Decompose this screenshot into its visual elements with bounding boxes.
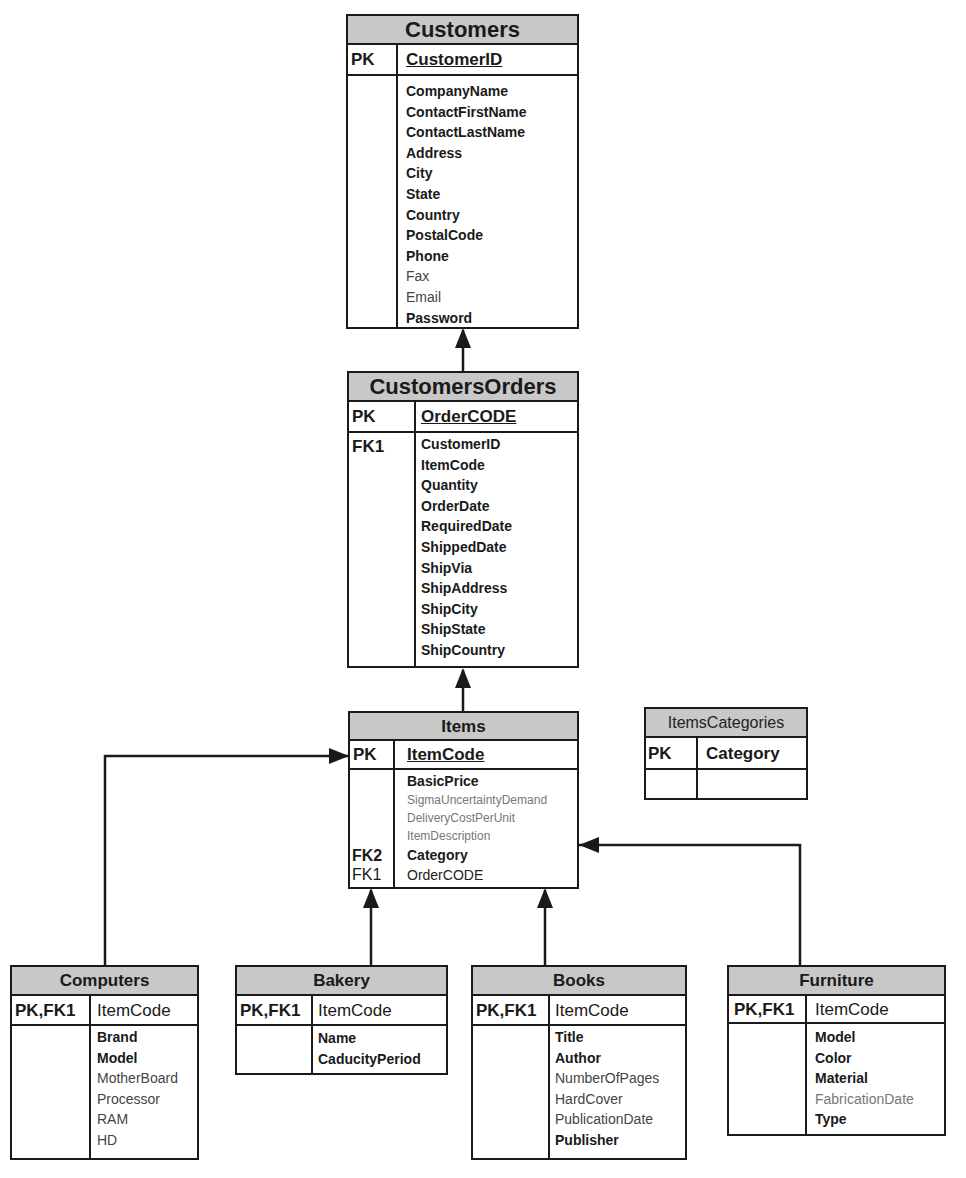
field: ItemDescription	[407, 827, 547, 845]
field: Quantity	[421, 475, 512, 496]
field: HardCover	[555, 1089, 659, 1110]
table-items-categories[interactable]: ItemsCategories PK Category	[644, 707, 808, 800]
pk-field: ItemCode	[313, 996, 392, 1024]
arrowhead-items-right	[579, 837, 599, 853]
field: HD	[97, 1130, 178, 1151]
field: ShipVia	[421, 558, 512, 579]
field: State	[406, 184, 527, 205]
field: Author	[555, 1048, 659, 1069]
field: ShippedDate	[421, 537, 512, 558]
table-title: Items	[350, 713, 577, 741]
field: RequiredDate	[421, 516, 512, 537]
field: ItemCode	[421, 455, 512, 476]
pk-label: PK	[646, 738, 698, 768]
field: MotherBoard	[97, 1068, 178, 1089]
pk-field: ItemCode	[91, 996, 171, 1024]
field: Material	[815, 1068, 914, 1089]
field: Country	[406, 205, 527, 226]
field: Publisher	[555, 1130, 659, 1151]
table-books[interactable]: Books PK,FK1 ItemCode Title Author Numbe…	[471, 965, 687, 1160]
field: OrderCODE	[407, 866, 547, 885]
pk-field: ItemCode	[550, 996, 629, 1024]
table-computers[interactable]: Computers PK,FK1 ItemCode Brand Model Mo…	[10, 965, 199, 1160]
arrowhead-orders	[455, 668, 471, 688]
pk-label: PK,FK1	[473, 996, 550, 1024]
table-items[interactable]: Items PK ItemCode FK2 FK1 BasicPrice Sig…	[348, 711, 579, 889]
field: ContactLastName	[406, 122, 527, 143]
field: Processor	[97, 1089, 178, 1110]
fk2-label: FK2	[352, 846, 393, 865]
field: FabricationDate	[815, 1089, 914, 1110]
field: ShipAddress	[421, 578, 512, 599]
pk-label: PK,FK1	[237, 996, 313, 1024]
field: CaducityPeriod	[318, 1049, 421, 1070]
field: BasicPrice	[407, 772, 547, 791]
table-title: Furniture	[729, 967, 944, 996]
pk-field: Category	[698, 738, 780, 768]
field: PostalCode	[406, 225, 527, 246]
field: ShipState	[421, 619, 512, 640]
pk-label: PK	[348, 45, 398, 74]
fk-label: FK1	[352, 436, 414, 458]
field: Email	[406, 287, 527, 308]
pk-field: OrderCODE	[416, 402, 516, 431]
table-title: Books	[473, 967, 685, 996]
field: ShipCity	[421, 599, 512, 620]
field: NumberOfPages	[555, 1068, 659, 1089]
pk-label: PK,FK1	[729, 996, 807, 1022]
field: Password	[406, 308, 527, 329]
field: Type	[815, 1109, 914, 1130]
table-customers-orders[interactable]: CustomersOrders PK OrderCODE FK1 Custome…	[347, 371, 579, 668]
field: DeliveryCostPerUnit	[407, 809, 547, 827]
table-bakery[interactable]: Bakery PK,FK1 ItemCode Name CaducityPeri…	[235, 965, 448, 1075]
field: Address	[406, 143, 527, 164]
table-customers[interactable]: Customers PK CustomerID CompanyName Cont…	[346, 14, 579, 329]
field: City	[406, 163, 527, 184]
table-title: Computers	[12, 967, 197, 996]
field: Title	[555, 1027, 659, 1048]
field: OrderDate	[421, 496, 512, 517]
table-title: Bakery	[237, 967, 446, 996]
pk-label: PK,FK1	[12, 996, 91, 1024]
field: CompanyName	[406, 81, 527, 102]
arrowhead-items-left	[329, 748, 349, 764]
pk-label: PK	[350, 741, 395, 768]
field: PublicationDate	[555, 1109, 659, 1130]
table-furniture[interactable]: Furniture PK,FK1 ItemCode Model Color Ma…	[727, 965, 946, 1136]
arrowhead-customers	[455, 328, 471, 348]
field: ShipCountry	[421, 640, 512, 661]
field: Fax	[406, 266, 527, 287]
arrowhead-items-bakery	[363, 888, 379, 908]
field: Model	[815, 1027, 914, 1048]
field: Color	[815, 1048, 914, 1069]
fk1-label: FK1	[352, 865, 393, 884]
field: Model	[97, 1048, 178, 1069]
field: Phone	[406, 246, 527, 267]
table-title: Customers	[348, 16, 577, 45]
field: Name	[318, 1028, 421, 1049]
field: ContactFirstName	[406, 102, 527, 123]
field: SigmaUncertaintyDemand	[407, 791, 547, 809]
pk-label: PK	[349, 402, 416, 431]
pk-field: ItemCode	[395, 741, 484, 768]
table-title: ItemsCategories	[646, 709, 806, 738]
field: Brand	[97, 1027, 178, 1048]
table-title: CustomersOrders	[349, 373, 577, 402]
pk-field: ItemCode	[807, 996, 889, 1022]
field: RAM	[97, 1109, 178, 1130]
field: CustomerID	[421, 434, 512, 455]
arrowhead-items-books	[537, 888, 553, 908]
pk-field: CustomerID	[398, 45, 502, 74]
field: Category	[407, 845, 547, 866]
